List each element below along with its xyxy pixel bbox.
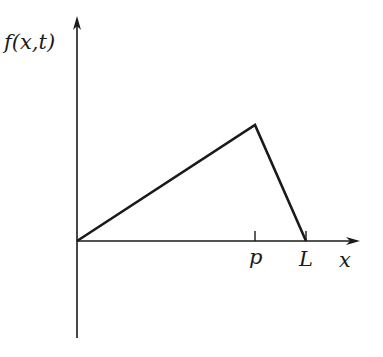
function-curve <box>77 125 306 241</box>
diagram-canvas: f(x,t) x p L <box>0 0 383 357</box>
plucked-string-diagram: f(x,t) x p L <box>0 0 383 357</box>
tick-label-p: p <box>249 245 262 269</box>
y-axis-label: f(x,t) <box>2 30 55 54</box>
x-axis-label: x <box>339 248 351 272</box>
tick-label-L: L <box>298 247 313 271</box>
